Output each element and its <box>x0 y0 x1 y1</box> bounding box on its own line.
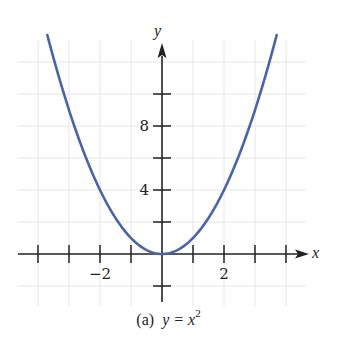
parabola-chart: −2248 x y <box>0 0 337 354</box>
x-axis-label: x <box>311 244 319 261</box>
y-tick-label: 4 <box>139 181 149 199</box>
x-tick-label: −2 <box>89 265 111 283</box>
caption-equation: y = x <box>162 311 195 328</box>
y-axis-arrow-icon <box>158 43 167 58</box>
x-tick-label: 2 <box>219 265 229 283</box>
y-axis-label: y <box>152 22 162 40</box>
caption-exponent: 2 <box>195 307 201 319</box>
caption-prefix: (a) <box>136 311 154 328</box>
tick-labels: −2248 <box>89 117 229 283</box>
figure-caption: (a) y = x2 <box>0 309 337 329</box>
y-tick-label: 8 <box>139 117 149 135</box>
